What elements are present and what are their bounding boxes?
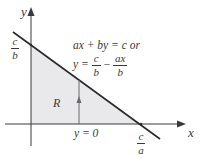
y-intercept-numerator: c	[13, 36, 18, 47]
equation-term-2: ax b	[113, 53, 127, 78]
y-axis-arrow-icon	[28, 7, 35, 16]
y-intercept-label: c b	[11, 36, 19, 61]
term2-denominator: b	[118, 67, 124, 78]
y-axis-label: y	[21, 5, 27, 18]
x-axis-label: x	[188, 126, 194, 139]
bottom-boundary-label: y = 0	[74, 128, 98, 140]
equation-line-1: ax + by = c or	[73, 40, 140, 52]
x-intercept-label: c a	[137, 131, 145, 156]
x-intercept-denominator: a	[138, 145, 144, 156]
equation-minus: −	[104, 59, 111, 71]
y-intercept-denominator: b	[12, 50, 18, 61]
diagram-canvas	[0, 0, 201, 158]
term1-denominator: b	[94, 67, 100, 78]
y-intercept-point	[30, 44, 32, 46]
x-axis-arrow-icon	[177, 121, 186, 128]
region-label: R	[53, 97, 60, 109]
x-intercept-point	[140, 123, 142, 125]
line-equation: ax + by = c or y = c b − ax b	[73, 40, 140, 78]
x-intercept-numerator: c	[139, 131, 144, 142]
equation-line-2: y = c b − ax b	[73, 53, 140, 78]
term2-numerator: ax	[115, 53, 125, 64]
equation-term-1: c b	[92, 53, 101, 78]
equation-lhs: y =	[73, 59, 89, 71]
term1-numerator: c	[94, 53, 99, 64]
